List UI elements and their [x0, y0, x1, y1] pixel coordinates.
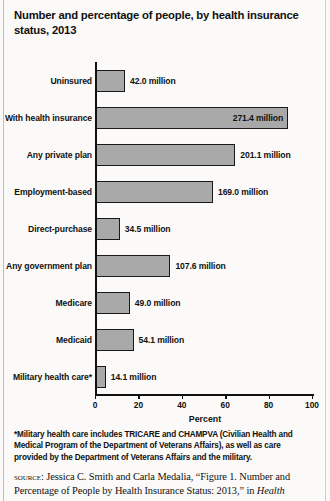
- bar: [96, 329, 134, 351]
- chart-row: Any government plan 107.6 million: [0, 247, 330, 284]
- y-axis-line: [95, 62, 97, 395]
- bar-value-label: 107.6 million: [175, 261, 225, 271]
- x-axis-tick-label: 80: [264, 400, 273, 410]
- bar: [96, 181, 213, 203]
- chart-row: Any private plan 201.1 million: [0, 136, 330, 173]
- x-axis-tick-label: 100: [305, 400, 319, 410]
- bar-track: 271.4 million: [96, 107, 313, 129]
- bar: [96, 292, 130, 314]
- chart-row: Medicare 49.0 million: [0, 284, 330, 321]
- bar-value-label: 14.1 million: [111, 372, 157, 382]
- chart-row: With health insurance 271.4 million: [0, 99, 330, 136]
- bar: [96, 255, 170, 277]
- x-axis-tick: [225, 394, 226, 399]
- x-axis-tick: [312, 394, 313, 399]
- x-axis-tick-label: 60: [221, 400, 230, 410]
- bar-track: 54.1 million: [96, 329, 313, 351]
- bar-track: 107.6 million: [96, 255, 313, 277]
- bar-value-label: 42.0 million: [130, 76, 176, 86]
- bar: [96, 70, 125, 92]
- category-label: Military health care*: [13, 372, 92, 382]
- bar-value-label: 169.0 million: [218, 187, 268, 197]
- bar: [96, 144, 235, 166]
- x-axis-tick: [182, 394, 183, 399]
- figure-page: Number and percentage of people, by heal…: [0, 0, 330, 501]
- x-axis-title: Percent: [189, 414, 221, 424]
- x-axis-tick-label: 20: [134, 400, 143, 410]
- bar-track: 42.0 million: [96, 70, 313, 92]
- page-title: Number and percentage of people, by heal…: [14, 8, 314, 37]
- x-axis-tick-label: 0: [93, 400, 98, 410]
- bar-track: 201.1 million: [96, 144, 313, 166]
- category-label: Employment-based: [14, 187, 92, 197]
- x-axis-tick-label: 40: [177, 400, 186, 410]
- chart-row: Direct-purchase 34.5 million: [0, 210, 330, 247]
- x-axis-tick: [138, 394, 139, 399]
- category-label: With health insurance: [5, 113, 92, 123]
- chart-rows: Uninsured 42.0 million With health insur…: [0, 62, 330, 395]
- category-label: Uninsured: [50, 76, 92, 86]
- bar-track: 169.0 million: [96, 181, 313, 203]
- chart-row: Employment-based 169.0 million: [0, 173, 330, 210]
- bar: [96, 218, 120, 240]
- bar-value-label: 49.0 million: [135, 298, 181, 308]
- bar-track: 49.0 million: [96, 292, 313, 314]
- bar-value-label: 54.1 million: [139, 335, 185, 345]
- source-italic-title: Health: [257, 485, 285, 496]
- category-label: Medicare: [56, 298, 92, 308]
- bar: [96, 366, 106, 388]
- bar-value-label: 34.5 million: [125, 224, 171, 234]
- source-text: Jessica C. Smith and Carla Medalia, “Fig…: [14, 471, 290, 496]
- category-label: Direct-purchase: [28, 224, 92, 234]
- category-label: Any government plan: [6, 261, 92, 271]
- bar-track: 34.5 million: [96, 218, 313, 240]
- x-axis-tick: [95, 394, 96, 399]
- source-keyword: source:: [14, 471, 44, 482]
- bar-chart: Uninsured 42.0 million With health insur…: [0, 62, 330, 392]
- bar-track: 14.1 million: [96, 366, 313, 388]
- x-axis-line: [95, 394, 314, 396]
- chart-row: Military health care* 14.1 million: [0, 358, 330, 395]
- category-label: Any private plan: [27, 150, 92, 160]
- source-note: source: Jessica C. Smith and Carla Medal…: [14, 470, 314, 497]
- chart-row: Medicaid 54.1 million: [0, 321, 330, 358]
- x-axis-tick: [269, 394, 270, 399]
- chart-row: Uninsured 42.0 million: [0, 62, 330, 99]
- bar-value-label: 201.1 million: [240, 150, 290, 160]
- footnote: *Military health care includes TRICARE a…: [14, 429, 316, 463]
- category-label: Medicaid: [56, 335, 92, 345]
- bar-value-label: 271.4 million: [233, 113, 283, 123]
